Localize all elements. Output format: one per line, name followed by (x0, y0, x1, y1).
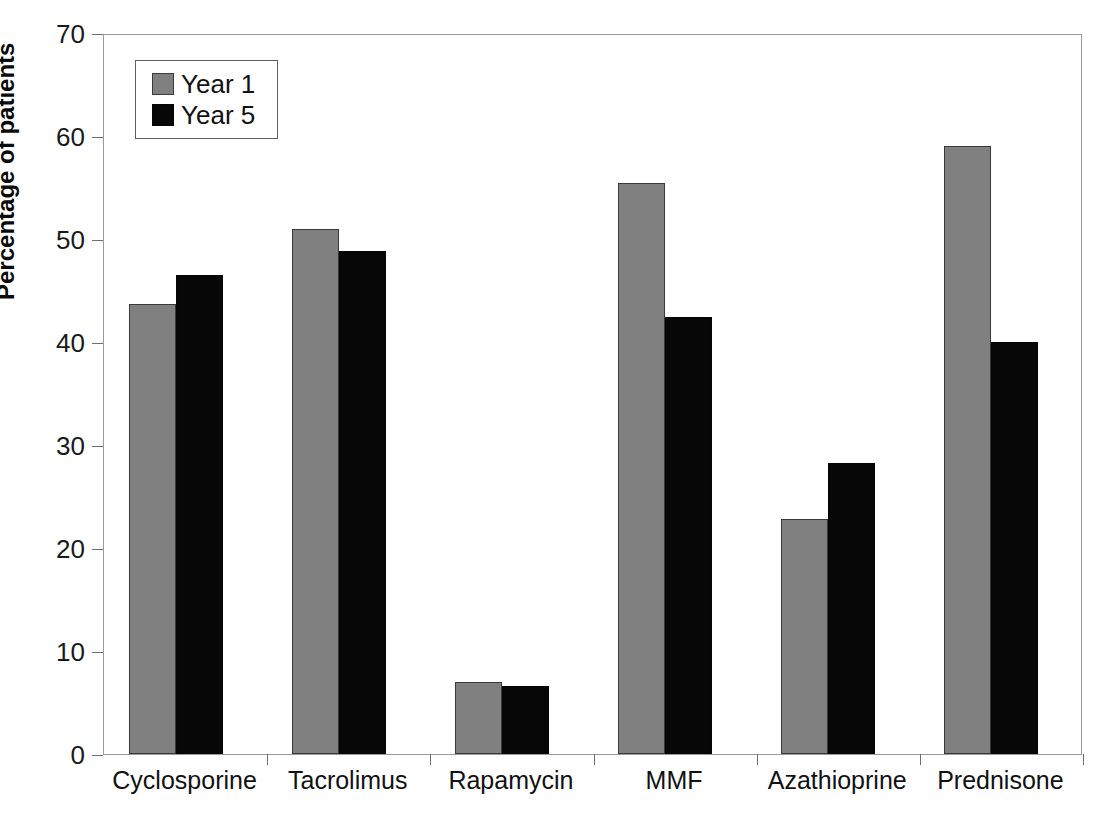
bar-prednisone-year-1 (944, 146, 991, 754)
x-axis-tick-mark (594, 754, 595, 765)
y-axis-title: Percentage of patients (0, 40, 20, 300)
x-axis-label-mmf: MMF (593, 766, 756, 795)
x-axis-tick-mark (267, 754, 268, 765)
bar-mmf-year-1 (618, 183, 665, 754)
x-axis-label-cyclosporine: Cyclosporine (103, 766, 266, 795)
y-axis-tick-mark (92, 549, 103, 550)
y-axis-tick-mark (92, 652, 103, 653)
x-axis-label-prednisone: Prednisone (919, 766, 1082, 795)
bar-azathioprine-year-5 (828, 463, 875, 754)
x-axis-tick-mark (430, 754, 431, 765)
y-axis-tick-label: 0 (71, 740, 85, 771)
x-axis-label-rapamycin: Rapamycin (429, 766, 592, 795)
bar-tacrolimus-year-1 (292, 229, 339, 754)
y-axis-tick-mark (92, 343, 103, 344)
x-axis-tick-mark (757, 754, 758, 765)
bar-prednisone-year-5 (991, 342, 1038, 754)
y-axis-tick-mark (92, 446, 103, 447)
legend-label-year-1: Year 1 (181, 71, 255, 97)
bar-rapamycin-year-1 (455, 682, 502, 754)
y-axis-tick-label: 60 (56, 122, 85, 153)
bar-mmf-year-5 (665, 317, 712, 754)
bar-tacrolimus-year-5 (339, 251, 386, 754)
figure-caption (0, 806, 1105, 818)
black-swatch-icon (152, 104, 174, 126)
y-axis-tick-mark (92, 755, 103, 756)
x-axis-label-tacrolimus: Tacrolimus (266, 766, 429, 795)
plot-area: Year 1 Year 5 (103, 34, 1082, 755)
y-axis-tick-mark (92, 240, 103, 241)
legend-item-year-5: Year 5 (152, 99, 255, 130)
legend-item-year-1: Year 1 (152, 68, 255, 99)
y-axis-tick-mark (92, 34, 103, 35)
bar-chart-figure: Percentage of patients 010203040506070 Y… (0, 0, 1105, 818)
y-axis-tick-label: 30 (56, 431, 85, 462)
y-axis-tick-label: 70 (56, 19, 85, 50)
x-axis-label-azathioprine: Azathioprine (756, 766, 919, 795)
x-axis-tick-mark (1083, 754, 1084, 765)
x-axis-tick-mark (920, 754, 921, 765)
y-axis-tick-label: 20 (56, 534, 85, 565)
y-axis-tick-mark (92, 137, 103, 138)
chart-legend: Year 1 Year 5 (135, 60, 278, 139)
legend-label-year-5: Year 5 (181, 102, 255, 128)
bar-azathioprine-year-1 (781, 519, 828, 754)
y-axis-tick-label: 10 (56, 637, 85, 668)
bar-cyclosporine-year-1 (129, 304, 176, 754)
bar-cyclosporine-year-5 (176, 275, 223, 754)
gray-swatch-icon (152, 73, 174, 95)
bar-rapamycin-year-5 (502, 686, 549, 754)
y-axis-tick-label: 40 (56, 328, 85, 359)
y-axis-tick-label: 50 (56, 225, 85, 256)
